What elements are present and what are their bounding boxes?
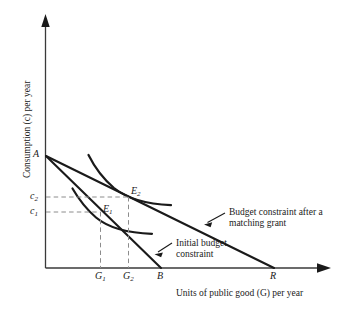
annotation-matching-grant-line1: Budget constraint after a [229,207,323,218]
x-tick-label-g1: G1 [95,270,106,283]
y-axis-title: Consumption (c) per year [22,81,33,178]
annotation-arrowhead-initial-budget [155,252,163,257]
annotation-initial-budget-line1: Initial budget [176,238,227,249]
point-label-a: A [33,148,39,159]
annotation-initial-budget-line2: constraint [176,249,227,260]
x-axis-title: Units of public good (G) per year [176,288,303,299]
equilibrium-label-e1-subscript: 1 [109,208,113,216]
annotation-initial-budget: Initial budget constraint [176,238,227,259]
y-axis-arrowhead [41,14,49,27]
y-tick-label-c2: c2 [30,190,38,203]
point-label-r: R [270,270,276,281]
y-tick-label-c2-subscript: 2 [34,195,38,203]
x-axis [46,263,332,273]
x-axis-arrowhead [317,263,331,273]
indifference-curve-upper [89,155,172,205]
y-tick-label-c1: c1 [30,205,38,218]
annotation-matching-grant-line2: matching grant [229,218,323,229]
annotation-arrowhead-matching-grant [204,222,212,227]
annotation-leader-initial-budget [158,243,172,252]
annotation-leader-matching-grant [208,213,226,223]
x-tick-label-g2: G2 [123,270,134,283]
x-tick-label-g1-subscript: 1 [102,275,106,283]
x-tick-label-g2-subscript: 2 [130,275,134,283]
economics-diagram: Consumption (c) per year Units of public… [0,0,346,313]
annotation-matching-grant: Budget constraint after a matching grant [229,207,323,228]
equilibrium-label-e1: E1 [103,203,113,216]
equilibrium-label-e2: E2 [131,185,141,198]
y-axis [41,14,49,268]
annotation-arrow-initial-budget [155,243,173,257]
equilibrium-label-e2-subscript: 2 [137,190,141,198]
diagram-canvas [0,0,346,313]
annotation-arrow-matching-grant [204,213,225,227]
y-tick-label-c1-subscript: 1 [34,210,38,218]
point-label-b: B [157,270,163,281]
